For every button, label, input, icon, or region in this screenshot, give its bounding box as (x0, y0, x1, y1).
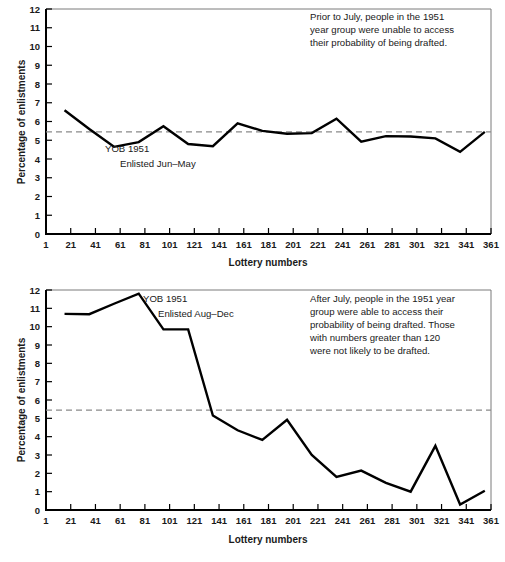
y-tick-label: 0 (35, 505, 40, 516)
x-tick-label: 281 (384, 515, 401, 526)
annotation-bottom-line-1: After July, people in the 1951 year (310, 293, 456, 304)
chart-bottom-svg: 0123456789101112 12141618110112114116118… (0, 275, 505, 562)
x-tick-label: 141 (211, 515, 228, 526)
y-tick-label: 5 (35, 413, 41, 424)
y-tick-label: 0 (35, 229, 40, 240)
annotation-bottom-line-2: group were able to access their (310, 306, 444, 317)
x-tick-label: 101 (162, 239, 179, 250)
x-tick-label: 61 (115, 515, 126, 526)
x-tick-label: 261 (359, 239, 376, 250)
y-tick-label: 3 (35, 172, 40, 183)
chart-top-svg: 0123456789101112 12141618110112114116118… (0, 0, 505, 275)
y-tick-label: 7 (35, 97, 40, 108)
annotation-top-line-1: Prior to July, people in the 1951 (310, 11, 444, 22)
x-tick-label: 281 (384, 239, 401, 250)
series-label-bottom-line-2: Enlisted Aug–Dec (158, 308, 234, 319)
chart-top: 0123456789101112 12141618110112114116118… (0, 0, 505, 275)
x-tick-label: 341 (458, 515, 475, 526)
x-tick-label: 161 (236, 239, 253, 250)
y-tick-label: 7 (35, 376, 40, 387)
x-tick-labels-top: 1214161811011211411611812012212412612813… (43, 239, 499, 250)
y-tick-label: 2 (35, 191, 40, 202)
y-tick-labels-top: 0123456789101112 (29, 4, 40, 240)
x-tick-label: 241 (335, 239, 352, 250)
y-tick-label: 3 (35, 450, 40, 461)
annotation-top: Prior to July, people in the 1951 year g… (310, 11, 454, 48)
x-tick-label: 41 (90, 515, 101, 526)
x-tick-label: 221 (310, 515, 327, 526)
x-tick-label: 121 (186, 239, 203, 250)
annotation-bottom: After July, people in the 1951 year grou… (309, 293, 456, 356)
x-tick-label: 321 (434, 239, 451, 250)
y-axis-title-top: Percentage of enlistments (16, 59, 27, 184)
series-label-bottom-line-1: YOB 1951 (143, 293, 187, 304)
x-tick-label: 1 (43, 515, 49, 526)
figure-page: 0123456789101112 12141618110112114116118… (0, 0, 505, 562)
x-tick-label: 201 (285, 515, 302, 526)
series-label-bottom: YOB 1951 Enlisted Aug–Dec (143, 293, 234, 319)
x-tick-label: 361 (483, 515, 500, 526)
y-tick-label: 1 (35, 486, 41, 497)
series-label-top-line-1: YOB 1951 (105, 143, 149, 154)
y-tick-label: 4 (35, 431, 41, 442)
chart-bottom: 0123456789101112 12141618110112114116118… (0, 275, 505, 562)
x-tick-label: 181 (261, 239, 278, 250)
y-tick-label: 9 (35, 60, 40, 71)
y-tick-label: 4 (35, 154, 41, 165)
x-tick-label: 201 (285, 239, 302, 250)
y-tick-label: 8 (35, 79, 40, 90)
y-tick-label: 5 (35, 135, 41, 146)
y-tick-label: 9 (35, 340, 40, 351)
series-label-top-line-2: Enlisted Jun–May (120, 158, 196, 169)
y-tick-label: 11 (30, 22, 41, 33)
y-tick-label: 10 (29, 41, 40, 52)
y-tick-label: 6 (35, 395, 40, 406)
x-tick-label: 241 (335, 515, 352, 526)
x-tick-label: 301 (409, 515, 426, 526)
x-tick-label: 321 (434, 515, 451, 526)
x-tick-label: 221 (310, 239, 327, 250)
y-tick-label: 1 (35, 210, 41, 221)
x-tick-label: 81 (140, 239, 151, 250)
x-tick-label: 41 (90, 239, 101, 250)
y-tick-labels-bottom: 0123456789101112 (29, 285, 40, 516)
x-tick-label: 261 (359, 515, 376, 526)
x-tick-label: 1 (43, 239, 49, 250)
annotation-bottom-line-3: probability of being drafted. Those (310, 319, 455, 330)
x-axis-title-top: Lottery numbers (229, 257, 308, 268)
x-tick-label: 81 (140, 515, 151, 526)
x-tick-label: 141 (211, 239, 228, 250)
annotation-bottom-line-4: with numbers greater than 120 (309, 332, 440, 343)
y-tick-label: 2 (35, 468, 40, 479)
x-tick-label: 161 (236, 515, 253, 526)
annotation-bottom-line-5: were not likely to be drafted. (309, 345, 430, 356)
x-tick-label: 361 (483, 239, 500, 250)
x-tick-label: 21 (65, 239, 76, 250)
x-tick-label: 121 (186, 515, 203, 526)
x-tick-label: 181 (261, 515, 278, 526)
y-tick-label: 11 (30, 303, 41, 314)
x-tick-label: 61 (115, 239, 126, 250)
annotation-top-line-3: their probability of being drafted. (310, 37, 447, 48)
annotation-top-line-2: year group were unable to access (310, 24, 454, 35)
y-tick-label: 8 (35, 358, 40, 369)
x-tick-label: 341 (458, 239, 475, 250)
y-tick-label: 12 (29, 4, 40, 15)
y-tick-label: 10 (29, 321, 40, 332)
x-tick-label: 21 (65, 515, 76, 526)
y-tick-label: 6 (35, 116, 40, 127)
y-axis-title-bottom: Percentage of enlistments (16, 337, 27, 462)
x-axis-title-bottom: Lottery numbers (229, 534, 308, 545)
y-tick-label: 12 (29, 285, 40, 296)
x-tick-label: 301 (409, 239, 426, 250)
x-tick-labels-bottom: 1214161811011211411611812012212412612813… (43, 515, 499, 526)
series-label-top: YOB 1951 Enlisted Jun–May (105, 143, 196, 169)
x-tick-label: 101 (162, 515, 179, 526)
